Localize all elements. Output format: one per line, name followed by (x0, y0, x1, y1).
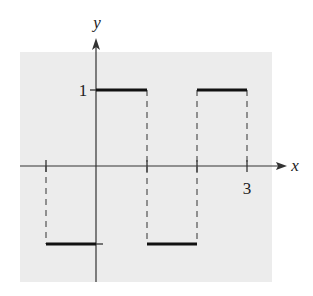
plot-background (20, 52, 272, 282)
x-tick-label-3: 3 (243, 179, 252, 198)
square-wave-chart: y x 1 3 (0, 0, 313, 296)
x-axis-label: x (290, 156, 299, 175)
y-tick-label-1: 1 (79, 81, 88, 100)
y-axis-label: y (91, 13, 101, 32)
